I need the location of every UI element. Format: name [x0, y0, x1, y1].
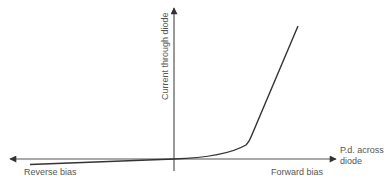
y-axis-label: Current through diode [160, 12, 171, 100]
forward-bias-label: Forward bias [271, 167, 323, 178]
x-axis-label-line1: P.d. across [340, 145, 387, 156]
reverse-bias-label: Reverse bias [24, 167, 77, 178]
x-axis-label: P.d. across diode [340, 145, 387, 167]
x-axis-label-line2: diode [340, 156, 387, 167]
diode-iv-diagram [0, 0, 387, 184]
